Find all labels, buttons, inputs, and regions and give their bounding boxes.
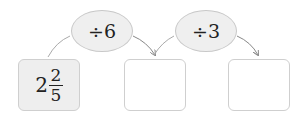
operation-label: ÷3 [192, 20, 220, 42]
operation-divide-6: ÷6 [71, 10, 133, 52]
answer-box-1[interactable] [124, 59, 186, 111]
operation-divide-3: ÷3 [175, 10, 237, 52]
start-value-box: 2 2 5 [18, 59, 80, 111]
whole-part: 2 [35, 73, 48, 97]
fraction: 2 5 [49, 67, 63, 104]
denominator: 5 [50, 87, 61, 104]
operation-label: ÷6 [88, 20, 116, 42]
answer-box-2[interactable] [228, 59, 290, 111]
mixed-number: 2 2 5 [35, 67, 63, 104]
numerator: 2 [50, 67, 61, 84]
